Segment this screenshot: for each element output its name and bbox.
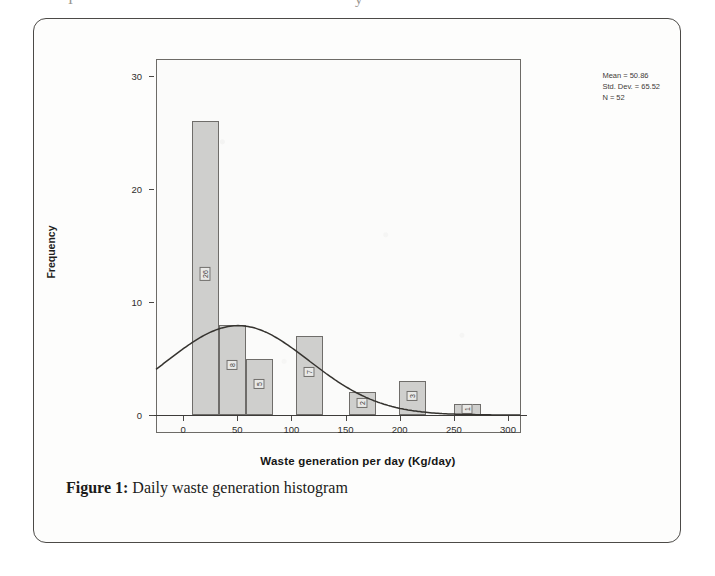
x-axis-tick-label: 200	[392, 424, 408, 435]
stat-n: N = 52	[602, 93, 660, 104]
figure-caption-text: Daily waste generation histogram	[128, 479, 348, 496]
x-axis-title: Waste generation per day (Kg/day)	[34, 455, 682, 467]
x-axis-tick-label: 50	[232, 424, 243, 435]
x-axis-tick-mark	[508, 416, 509, 421]
top-clipped-text: I y	[0, 0, 715, 18]
x-axis-tick-mark	[237, 416, 238, 421]
x-axis-tick-label: 300	[500, 424, 516, 435]
y-axis-tick-mark	[149, 76, 154, 77]
x-axis-tick-mark	[291, 416, 292, 421]
x-axis-tick-label: 100	[283, 424, 299, 435]
x-axis-tick-label: 250	[446, 424, 462, 435]
top-clipped-fragment-left: I	[68, 0, 73, 8]
y-axis-tick-label: 10	[116, 297, 142, 308]
figure-card: Frequency 0102030050100150200250300 2685…	[33, 18, 681, 543]
figure-caption-label: Figure 1:	[66, 479, 128, 496]
x-axis-line	[150, 415, 527, 416]
histogram-bar-count-label: 1	[462, 404, 473, 414]
histogram-bar-count-label: 3	[407, 391, 418, 401]
y-axis-tick-mark	[149, 302, 154, 303]
y-axis-tick-label: 0	[116, 410, 142, 421]
chart-container: Frequency 0102030050100150200250300 2685…	[34, 19, 682, 469]
y-axis-tick-mark	[149, 189, 154, 190]
histogram-bar-count-label: 8	[227, 360, 238, 370]
stat-std-dev: Std. Dev. = 65.52	[602, 82, 660, 93]
y-axis-tick-label: 20	[116, 184, 142, 195]
y-axis-tick-label: 30	[116, 71, 142, 82]
top-clipped-fragment-right: y	[355, 0, 363, 8]
stat-mean: Mean = 50.86	[602, 71, 660, 82]
x-axis-tick-mark	[400, 416, 401, 421]
y-axis-title: Frequency	[45, 225, 57, 278]
histogram-bar-count-label: 5	[254, 379, 265, 389]
histogram-bar-count-label: 26	[200, 267, 211, 281]
histogram-bar-count-label: 7	[304, 367, 315, 377]
x-axis-tick-mark	[454, 416, 455, 421]
figure-caption: Figure 1: Daily waste generation histogr…	[66, 479, 348, 497]
histogram-bar-count-label: 2	[357, 398, 368, 408]
x-axis-tick-label: 0	[180, 424, 185, 435]
statistics-box: Mean = 50.86 Std. Dev. = 65.52 N = 52	[602, 71, 660, 104]
x-axis-tick-mark	[183, 416, 184, 421]
x-axis-tick-mark	[346, 416, 347, 421]
x-axis-tick-label: 150	[338, 424, 354, 435]
y-axis-tick-mark	[149, 415, 154, 416]
